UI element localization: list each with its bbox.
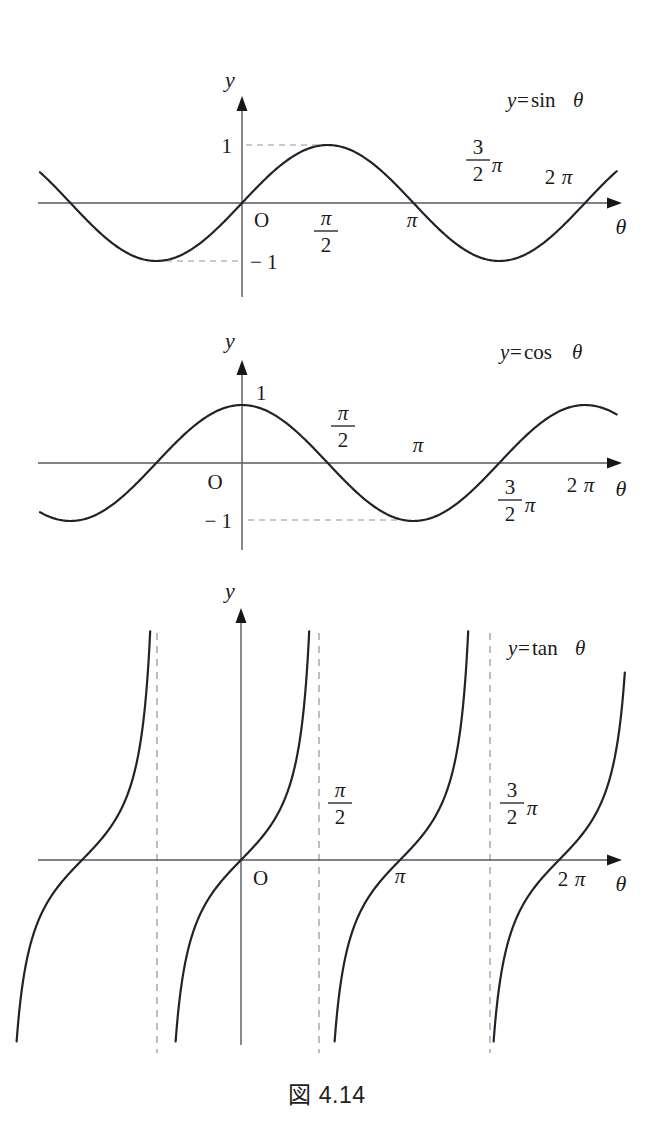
cosine-xtick-two-pi: 2 π [567,473,595,497]
svg-text:2: 2 [567,473,578,497]
tangent-theta-axis-label: θ [616,871,627,896]
tangent-branch-left [17,631,151,1041]
svg-text:2: 2 [558,867,569,891]
tangent-xtick-three-halves-pi: 3 2 π [500,778,538,829]
cosine-y-axis [237,360,248,550]
sine-y-axis-label: y [223,67,235,92]
tangent-equation-label: y = tan θ [506,636,585,660]
tangent-graph-panel: y θ O π 2 π 3 2 π 2 π y = tan [0,575,654,1055]
svg-text:3: 3 [505,475,516,499]
svg-text:π: π [335,778,346,802]
sine-equation-label: y = sin θ [505,88,583,112]
figure-caption: 図 4.14 [0,1076,654,1110]
cosine-plot: y θ O 1 − 1 π 2 π 3 2 π 2 π y = [0,310,654,575]
tangent-plot: y θ O π 2 π 3 2 π 2 π y = tan [0,575,654,1055]
tangent-y-axis-label: y [223,578,235,603]
sine-origin-label: O [254,208,269,232]
svg-text:θ: θ [573,88,583,112]
tangent-xtick-pi: π [395,864,406,888]
svg-text:2: 2 [507,805,518,829]
svg-text:=: = [518,636,530,660]
svg-text:2: 2 [338,428,349,452]
cosine-xtick-pi: π [413,433,424,457]
sine-xtick-pi: π [407,208,418,232]
cosine-xtick-three-halves-pi: 3 2 π [498,475,536,526]
svg-text:=: = [510,340,522,364]
tangent-branch-far-right [494,673,625,1042]
svg-text:θ: θ [575,636,585,660]
svg-text:2: 2 [505,502,516,526]
svg-text:2: 2 [545,165,556,189]
svg-text:2: 2 [473,162,484,186]
svg-text:π: π [584,473,595,497]
tangent-y-axis [236,608,247,1045]
tangent-xtick-two-pi: 2 π [558,867,586,891]
cosine-equation-label: y = cos θ [498,340,582,364]
sine-graph-panel: y θ O 1 − 1 π 2 π 3 2 π 2 π [0,60,654,310]
svg-text:π: π [525,493,536,517]
svg-text:tan: tan [532,636,558,660]
figure-4-14: y θ O 1 − 1 π 2 π 3 2 π 2 π [0,0,654,1122]
sine-y-axis [237,96,248,297]
tangent-x-axis [38,855,622,866]
svg-text:π: π [321,206,332,230]
tangent-branch-middle [176,631,310,1041]
sine-ytick-one: 1 [222,134,233,158]
svg-text:π: π [492,153,503,177]
cosine-origin-label: O [207,470,222,494]
cosine-graph-panel: y θ O 1 − 1 π 2 π 3 2 π 2 π y = [0,310,654,575]
sine-xtick-three-halves-pi: 3 2 π [466,135,503,186]
sine-theta-axis-label: θ [616,214,627,239]
svg-text:3: 3 [507,778,518,802]
svg-text:π: π [338,401,349,425]
sine-xtick-pi-over-2: π 2 [314,206,338,257]
svg-text:2: 2 [335,805,346,829]
svg-text:π: π [527,796,538,820]
svg-text:y: y [506,636,518,660]
tangent-origin-label: O [253,866,268,890]
svg-text:θ: θ [572,340,582,364]
svg-text:sin: sin [531,88,556,112]
tangent-xtick-pi-over-2: π 2 [328,778,352,829]
cosine-y-axis-label: y [223,328,235,353]
cosine-ytick-minus-one: − 1 [204,509,232,533]
svg-text:y: y [505,88,517,112]
sine-xtick-two-pi: 2 π [545,165,573,189]
svg-text:π: π [562,165,573,189]
svg-text:=: = [517,88,529,112]
cosine-xtick-pi-over-2: π 2 [331,401,355,452]
cosine-theta-axis-label: θ [616,476,627,501]
sine-plot: y θ O 1 − 1 π 2 π 3 2 π 2 π [0,60,654,310]
svg-text:y: y [498,340,510,364]
svg-text:3: 3 [473,135,484,159]
cosine-ytick-one: 1 [256,381,267,405]
svg-text:2: 2 [321,233,332,257]
sine-ytick-minus-one: − 1 [250,250,278,274]
svg-text:π: π [575,867,586,891]
svg-text:cos: cos [524,340,552,364]
tangent-branch-right [335,631,469,1041]
